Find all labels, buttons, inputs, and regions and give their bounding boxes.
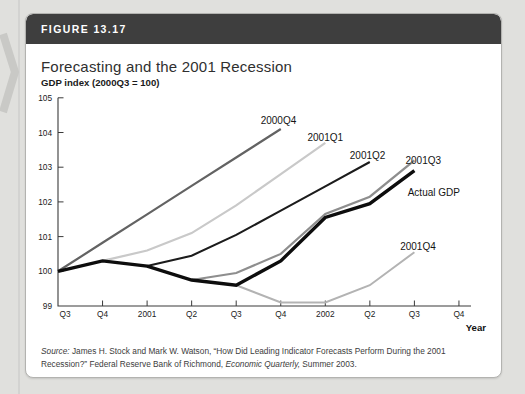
x-tick-label: Q2 — [186, 309, 197, 319]
series-label-2001q1: 2001Q1 — [307, 132, 343, 143]
series-label-2000q4: 2000Q4 — [261, 115, 297, 126]
y-tick-label: 104 — [38, 128, 52, 138]
page: FIGURE 13.17 Forecasting and the 2001 Re… — [0, 0, 525, 394]
series-line-2001q3 — [192, 160, 415, 280]
series-line-2001q4 — [236, 252, 414, 302]
y-tick-label: 100 — [38, 266, 52, 276]
axis-lines — [58, 98, 471, 306]
x-tick-label: Q4 — [97, 309, 108, 319]
series-label-2001q2: 2001Q2 — [350, 150, 386, 161]
x-tick-label: 2001 — [138, 309, 157, 319]
x-tick-label: Q3 — [231, 309, 242, 319]
x-tick-label: Q4 — [453, 309, 464, 319]
series-label-2001q3: 2001Q3 — [405, 155, 441, 166]
x-tick-label: Q4 — [275, 309, 286, 319]
source-text: Summer 2003. — [300, 359, 357, 369]
chevron-icon — [3, 34, 15, 112]
y-tick-label: 105 — [38, 93, 52, 103]
figure-card: FIGURE 13.17 Forecasting and the 2001 Re… — [25, 13, 502, 378]
x-tick-label: Q2 — [364, 309, 375, 319]
series-label-2001q4: 2001Q4 — [400, 241, 436, 252]
source-italic-text: Economic Quarterly, — [225, 359, 300, 369]
x-tick-label: Q3 — [409, 309, 420, 319]
x-tick-label: Q3 — [59, 309, 70, 319]
source-note: Source: James H. Stock and Mark W. Watso… — [41, 345, 491, 370]
series-line-actual-gdp — [58, 171, 414, 286]
series-label-actual-gdp: Actual GDP — [408, 187, 461, 198]
gdp-forecast-chart: 99100101102103104105Q3Q42001Q2Q3Q42002Q2… — [26, 14, 502, 378]
series-line-2000q4 — [58, 129, 281, 271]
source-text: Recession?” Federal Reserve Bank of Rich… — [41, 359, 225, 369]
source-text: James H. Stock and Mark W. Watson, “How … — [70, 346, 446, 356]
x-axis-title: Year — [466, 322, 486, 333]
y-tick-label: 101 — [38, 232, 52, 242]
y-tick-label: 103 — [38, 162, 52, 172]
y-tick-label: 99 — [43, 301, 53, 311]
x-tick-label: 2002 — [316, 309, 335, 319]
y-tick-label: 102 — [38, 197, 52, 207]
source-italic-text: Source: — [41, 346, 70, 356]
